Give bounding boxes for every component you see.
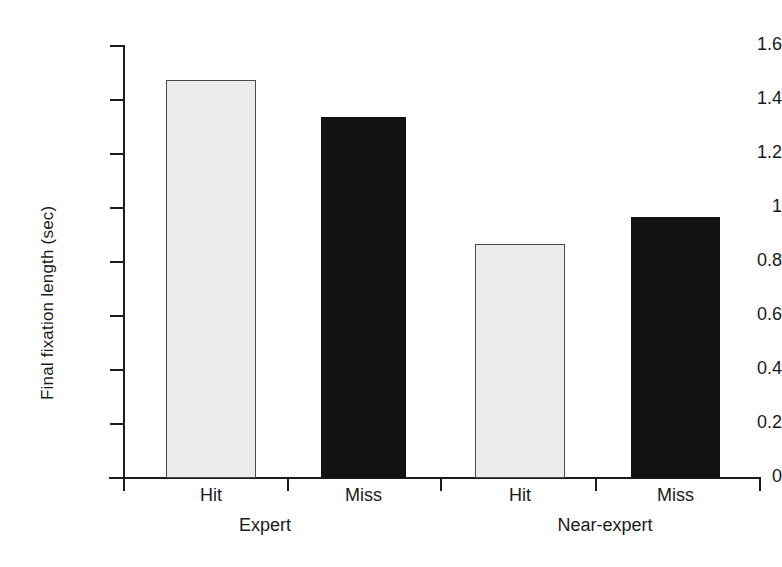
y-tick-0.8: [110, 261, 123, 263]
y-tick-0.2: [110, 423, 123, 425]
y-tick-1.6: [110, 45, 123, 47]
y-tick-1: [110, 207, 123, 209]
y-tick-label-1.4: 1.4: [728, 89, 782, 107]
y-tick-1.4: [110, 99, 123, 101]
x-label-expert-hit: Hit: [166, 486, 256, 506]
y-axis-line: [123, 45, 125, 479]
x-tick-nearexpert-hit-miss: [595, 479, 597, 491]
x-label-nearexpert-miss: Miss: [631, 486, 720, 506]
group-label-expert: Expert: [215, 516, 315, 536]
x-label-expert-miss: Miss: [321, 486, 406, 506]
y-tick-label-0.8: 0.8: [728, 251, 782, 269]
y-tick-label-1.2: 1.2: [728, 143, 782, 161]
y-tick-label-1.6: 1.6: [728, 35, 782, 53]
y-tick-0.6: [110, 315, 123, 317]
plot-area: 1.6 1.4 1.2 1 0.8 0.6 0.4 0.2 0 Hit Miss…: [0, 0, 782, 567]
bar-expert-hit: [166, 80, 256, 478]
y-tick-label-0.4: 0.4: [728, 359, 782, 377]
y-tick-label-0: 0: [728, 467, 782, 485]
x-tick-group-divider: [440, 479, 442, 491]
x-tick-right-edge: [759, 479, 761, 491]
y-tick-label-0.6: 0.6: [728, 305, 782, 323]
bar-nearexpert-miss: [631, 217, 720, 478]
bar-nearexpert-hit: [475, 244, 565, 478]
y-tick-0.4: [110, 369, 123, 371]
x-tick-left-edge: [123, 479, 125, 491]
bar-expert-miss: [321, 117, 406, 478]
y-tick-0: [110, 477, 123, 479]
group-label-near-expert: Near-expert: [525, 516, 685, 536]
x-label-nearexpert-hit: Hit: [475, 486, 565, 506]
y-tick-label-1: 1: [728, 197, 782, 215]
x-tick-expert-hit-miss: [287, 479, 289, 491]
bar-chart-figure: Final fixation length (sec) 1.6 1.4 1.2 …: [0, 0, 782, 567]
y-tick-label-0.2: 0.2: [728, 413, 782, 431]
y-tick-1.2: [110, 153, 123, 155]
